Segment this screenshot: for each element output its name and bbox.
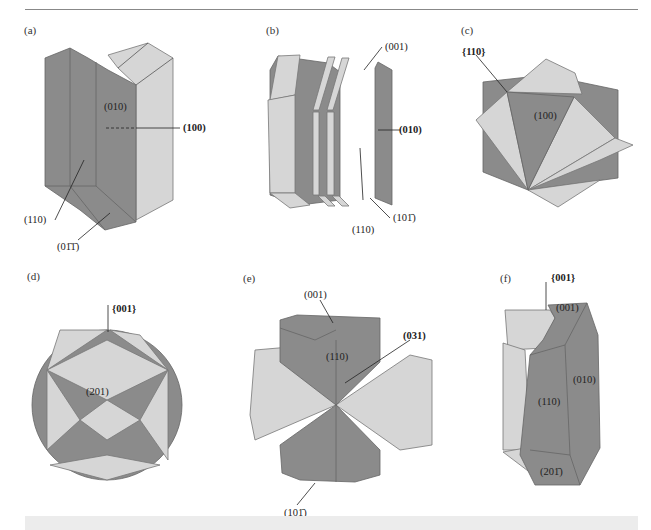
crystal-b: [268, 47, 400, 218]
crystal-c: [476, 55, 633, 207]
face-label: (110): [326, 351, 348, 362]
face-label: (110): [24, 214, 46, 225]
panel-label-c: (c): [461, 24, 473, 36]
face-label: (110): [538, 396, 560, 407]
face-label: {001}: [112, 303, 136, 314]
face-label: (010): [573, 374, 596, 385]
face-label: (001): [304, 289, 327, 300]
panel-label-b: (b): [266, 24, 279, 36]
face-label: (01̄1̄): [57, 241, 79, 252]
face-label: (100): [534, 110, 557, 121]
crystal-figures: [0, 0, 651, 530]
face-label: (001): [556, 302, 579, 313]
panel-label-e: (e): [243, 272, 255, 284]
face-label: (201): [86, 386, 109, 397]
face-label: (010): [399, 124, 422, 135]
panel-label-d: (d): [27, 270, 40, 282]
face-label: {110}: [462, 46, 485, 57]
face-label: (110): [352, 224, 374, 235]
face-label: (201̄): [540, 466, 563, 477]
face-label: {001}: [551, 272, 575, 283]
face-label: (001): [385, 41, 408, 52]
crystal-a: [45, 43, 180, 240]
face-label: (010): [104, 101, 127, 112]
panel-label-f: (f): [500, 272, 511, 284]
face-label: (100): [183, 122, 206, 133]
panel-label-a: (a): [24, 24, 36, 36]
face-label: (031): [403, 330, 426, 341]
caption-band: [25, 516, 638, 530]
face-label: (101̄): [393, 212, 416, 223]
